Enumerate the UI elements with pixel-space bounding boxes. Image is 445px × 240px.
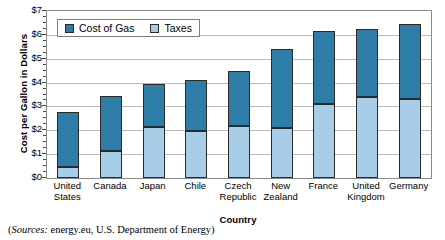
chart-legend: Cost of GasTaxes	[57, 19, 200, 37]
source-note: (Sources: energy.eu, U.S. Department of …	[8, 224, 214, 235]
x-axis-tick-label-line: States	[38, 191, 96, 202]
legend-label: Taxes	[164, 22, 191, 34]
bar-segment-cost-of-gas	[399, 24, 421, 99]
bar-segment-cost-of-gas	[143, 84, 165, 127]
legend-swatch-icon	[150, 24, 159, 33]
bar-czech-republic	[228, 71, 250, 178]
bar-segment-cost-of-gas	[57, 112, 79, 167]
legend-swatch-icon	[65, 24, 74, 33]
y-axis-tick-label: $0	[0, 171, 42, 182]
bar-segment-cost-of-gas	[185, 80, 207, 131]
y-axis-tick-label: $4	[0, 76, 42, 87]
bar-united-states	[57, 112, 79, 178]
bar-new-zealand	[271, 49, 293, 178]
x-axis-tick-label-line: Zealand	[252, 191, 310, 202]
bar-segment-taxes	[185, 131, 207, 178]
legend-entry-taxes: Taxes	[150, 22, 191, 34]
y-axis-tick-label: $6	[0, 28, 42, 39]
bar-segment-cost-of-gas	[356, 29, 378, 97]
bar-germany	[399, 24, 421, 178]
bar-segment-taxes	[100, 151, 122, 178]
bar-segment-taxes	[143, 127, 165, 178]
bar-united-kingdom	[356, 29, 378, 178]
legend-label: Cost of Gas	[79, 22, 134, 34]
bar-segment-taxes	[228, 126, 250, 178]
bar-segment-taxes	[57, 167, 79, 178]
x-axis-tick-label-line: Kingdom	[337, 191, 395, 202]
gas-price-chart-figure: Cost per Gallon in Dollars $0$1$2$3$4$5$…	[0, 0, 445, 240]
bar-segment-taxes	[399, 99, 421, 178]
bar-canada	[100, 96, 122, 178]
source-text: energy.eu, U.S. Department of Energy)	[48, 224, 215, 235]
y-axis-tick-label: $7	[0, 4, 42, 15]
y-axis-tick-label: $1	[0, 147, 42, 158]
x-axis-tick-label: Germany	[380, 180, 438, 191]
bar-segment-cost-of-gas	[100, 96, 122, 151]
bar-segment-taxes	[356, 97, 378, 178]
bar-segment-taxes	[313, 104, 335, 178]
x-axis-tick-label-line: Germany	[380, 180, 438, 191]
y-axis-tick-label: $5	[0, 52, 42, 63]
source-emphasis: Sources:	[12, 224, 48, 235]
bar-france	[313, 31, 335, 178]
bar-japan	[143, 84, 165, 178]
bar-chile	[185, 80, 207, 178]
bar-segment-cost-of-gas	[271, 49, 293, 128]
bar-segment-taxes	[271, 128, 293, 178]
legend-entry-cost-of-gas: Cost of Gas	[65, 22, 134, 34]
bar-segment-cost-of-gas	[228, 71, 250, 126]
y-axis-tick-label: $2	[0, 123, 42, 134]
y-axis-tick-label: $3	[0, 99, 42, 110]
bar-segment-cost-of-gas	[313, 31, 335, 104]
